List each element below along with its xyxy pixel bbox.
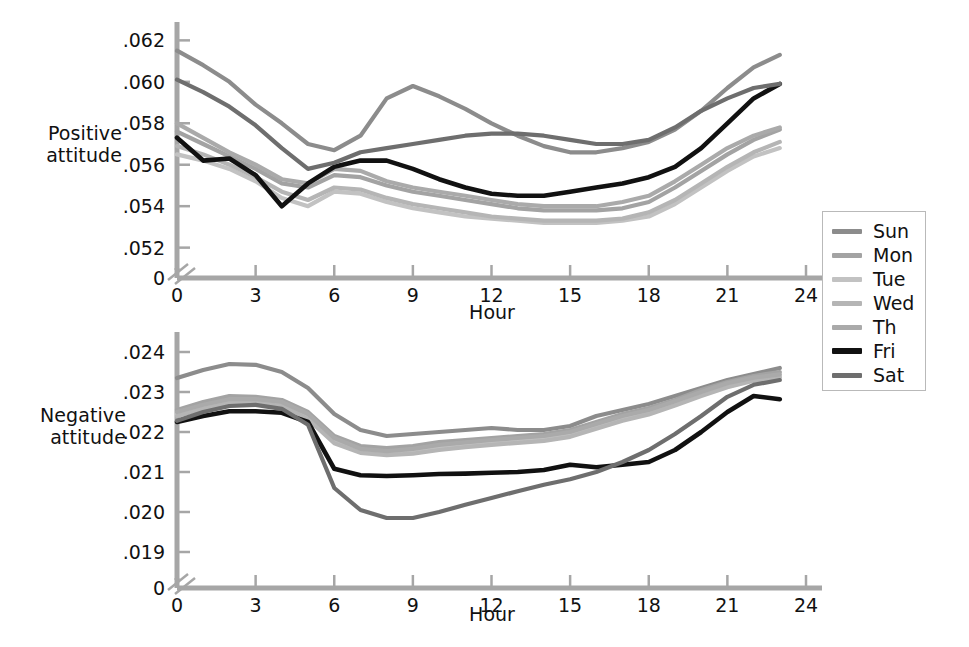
legend-item-label: Tue [873,270,905,289]
x-tick-label: 0 [171,284,183,306]
legend-item-sun[interactable]: Sun [823,219,925,243]
x-tick-label: 18 [637,594,661,616]
y-tick-label: .060 [123,71,165,93]
legend-item-fri[interactable]: Fri [823,339,925,363]
x-tick-label: 3 [250,594,262,616]
x-tick-label: 3 [250,284,262,306]
y-tick-label: .058 [123,112,165,134]
legend-item-label: Wed [873,294,914,313]
x-tick-label: 18 [637,284,661,306]
y-tick-label: .056 [123,154,165,176]
legend-item-label: Sat [873,366,904,385]
x-tick-label: 24 [794,594,818,616]
x-tick-label: 15 [558,594,582,616]
x-tick-label: 15 [558,284,582,306]
y-axis-origin-label: 0 [153,267,165,289]
legend-item-label: Sun [873,222,909,241]
legend-swatch-icon [832,301,862,306]
x-tick-label: 24 [794,284,818,306]
negative-y-axis-title: Negative attitude [8,404,126,448]
legend-swatch-icon [832,277,862,282]
x-tick-label: 6 [328,594,340,616]
y-tick-label: .062 [123,29,165,51]
chart-positive-attitude: .052.054.056.058.060.062003691215182124 … [0,10,830,320]
negative-attitude-plot: .019.020.021.022.023.024003691215182124 [0,320,830,630]
positive-attitude-plot: .052.054.056.058.060.062003691215182124 [0,10,830,320]
y-tick-label: .021 [123,461,165,483]
x-tick-label: 21 [715,284,739,306]
legend-swatch-icon [832,348,862,354]
y-tick-label: .052 [123,237,165,259]
y-tick-label: .022 [123,421,165,443]
y-tick-label: .020 [123,501,165,523]
legend-swatch-icon [832,325,862,330]
x-tick-label: 6 [328,284,340,306]
negative-x-axis-title: Hour [432,603,552,625]
legend-item-mon[interactable]: Mon [823,243,925,267]
x-tick-label: 9 [407,594,419,616]
positive-y-axis-title: Positive attitude [12,122,122,166]
legend-swatch-icon [832,373,862,378]
series-line-fri [177,84,780,206]
legend-item-th[interactable]: Th [823,315,925,339]
y-tick-label: .023 [123,381,165,403]
series-legend: SunMonTueWedThFriSat [822,211,926,391]
x-tick-label: 9 [407,284,419,306]
legend-item-label: Fri [873,342,896,361]
x-tick-label: 21 [715,594,739,616]
y-tick-label: .054 [123,195,165,217]
chart-negative-attitude: .019.020.021.022.023.024003691215182124 [0,320,830,630]
legend-item-wed[interactable]: Wed [823,291,925,315]
figure-root: .052.054.056.058.060.062003691215182124 … [0,0,969,647]
legend-swatch-icon [832,253,862,258]
y-tick-label: .019 [123,541,165,563]
legend-swatch-icon [832,229,862,234]
legend-item-tue[interactable]: Tue [823,267,925,291]
legend-item-sat[interactable]: Sat [823,363,925,387]
x-tick-label: 0 [171,594,183,616]
legend-item-label: Th [873,318,897,337]
y-axis-origin-label: 0 [153,577,165,599]
y-tick-label: .024 [123,341,165,363]
legend-item-label: Mon [873,246,913,265]
